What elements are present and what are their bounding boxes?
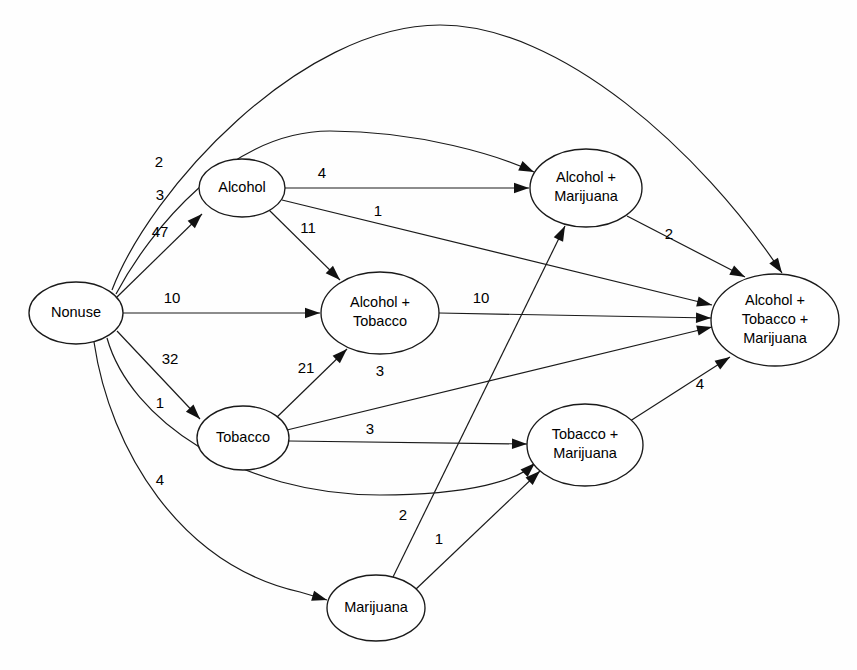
edge-tobacco-to-alc_tob	[275, 349, 347, 419]
node-tobacco[interactable]: Tobacco	[197, 406, 289, 470]
arrowhead-icon	[512, 439, 527, 449]
arrowhead-icon	[769, 258, 782, 273]
edge-weight-label: 11	[300, 219, 316, 236]
node-shape	[711, 274, 839, 366]
node-shape	[321, 272, 439, 354]
edge-weight-label: 2	[399, 506, 407, 523]
edge-weight-label: 1	[435, 530, 443, 547]
edge-nonuse-to-alcohol	[117, 214, 202, 297]
diagram-canvas: NonuseAlcoholAlcohol +TobaccoAlcohol +Ma…	[0, 0, 857, 670]
nodes-layer: NonuseAlcoholAlcohol +TobaccoAlcohol +Ma…	[29, 149, 839, 641]
edge-nonuse-to-atm	[112, 25, 782, 290]
edge-alc_tob-to-atm	[439, 313, 711, 318]
edge-alcohol-to-alc_tob	[268, 209, 340, 280]
edge-weight-label: 3	[376, 362, 384, 379]
edge-weight-label: 2	[155, 153, 163, 170]
edge-alc_mar-to-atm	[627, 216, 745, 277]
arrowhead-icon	[715, 357, 730, 369]
arrowhead-icon	[305, 308, 320, 318]
node-nonuse[interactable]: Nonuse	[29, 282, 123, 344]
node-marijuana[interactable]: Marijuana	[327, 575, 425, 641]
arrowhead-icon	[554, 226, 565, 242]
edge-weight-label: 21	[298, 359, 315, 376]
node-shape	[199, 159, 285, 217]
edge-tob_mar-to-atm	[627, 357, 730, 423]
edge-nonuse-to-alc_mar	[116, 131, 534, 294]
node-tob_mar[interactable]: Tobacco +Marijuana	[527, 404, 643, 486]
edge-weight-label: 4	[318, 164, 326, 181]
node-alc_mar[interactable]: Alcohol +Marijuana	[530, 149, 642, 227]
edge-nonuse-to-marijuana	[94, 342, 327, 600]
edge-weight-label: 3	[366, 420, 374, 437]
edge-weight-label: 3	[156, 186, 164, 203]
arrowhead-icon	[696, 313, 711, 323]
edge-nonuse-to-tobacco	[117, 331, 200, 419]
edge-weight-label: 4	[156, 471, 164, 488]
edge-marijuana-to-tob_mar	[415, 471, 540, 590]
arrowhead-icon	[729, 265, 745, 277]
node-shape	[327, 575, 425, 641]
arrowhead-icon	[514, 183, 529, 193]
edge-weight-label: 1	[156, 394, 164, 411]
arrowhead-icon	[518, 161, 534, 172]
node-shape	[527, 404, 643, 486]
edge-weight-label: 32	[162, 350, 179, 367]
node-alc_tob[interactable]: Alcohol +Tobacco	[321, 272, 439, 354]
node-shape	[530, 149, 642, 227]
arrowhead-icon	[696, 325, 712, 335]
arrowhead-icon	[311, 591, 327, 601]
edge-tobacco-to-tob_mar	[289, 441, 527, 444]
node-shape	[197, 406, 289, 470]
arrowhead-icon	[696, 296, 712, 306]
edge-weight-label: 10	[473, 289, 490, 306]
edge-weight-label: 1	[374, 202, 382, 219]
edge-weight-label: 10	[164, 289, 181, 306]
edge-marijuana-to-alc_mar	[393, 226, 565, 577]
transition-graph: NonuseAlcoholAlcohol +TobaccoAlcohol +Ma…	[0, 0, 857, 670]
edge-nonuse-to-tob_mar	[107, 338, 535, 495]
node-atm[interactable]: Alcohol +Tobacco +Marijuana	[711, 274, 839, 366]
node-shape	[29, 282, 123, 344]
node-alcohol[interactable]: Alcohol	[199, 159, 285, 217]
edge-weight-label: 47	[152, 223, 169, 240]
